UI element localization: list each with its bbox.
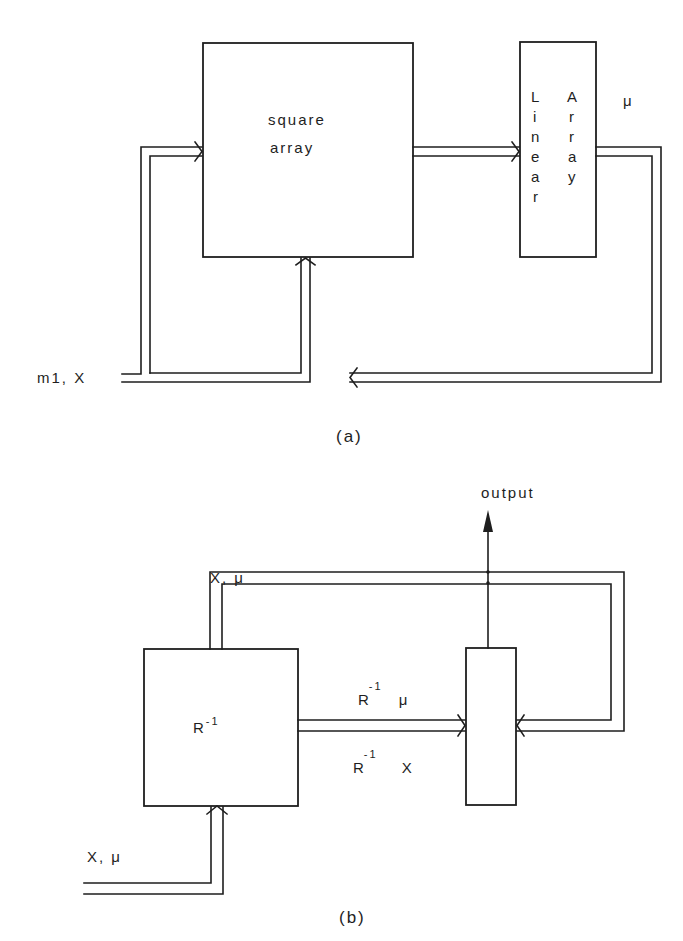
array-letter: A (567, 88, 577, 105)
linear-letter: r (533, 188, 538, 205)
array-letter: r (569, 128, 574, 145)
array-letter: a (568, 148, 577, 165)
linear-letter: L (531, 88, 539, 105)
linear-letter: a (531, 168, 540, 185)
r-inverse-box (144, 649, 298, 806)
pipe-input-left (122, 142, 202, 374)
arrowhead-icon (296, 258, 315, 265)
arrowhead-icon (350, 368, 357, 387)
square-array-label-line2: array (270, 139, 314, 156)
square-array-label-line1: square (268, 111, 326, 128)
arrowhead-icon (195, 142, 202, 161)
pipe-input-bottom (122, 258, 315, 382)
upper-pipe-label: R-1μ (358, 680, 409, 708)
diagram-a: square array L i n e a r A r r a y μ (37, 42, 661, 446)
output-arrow (483, 510, 493, 648)
arrowhead-icon (517, 715, 524, 736)
pipe-r-inverse-to-processor (298, 715, 465, 736)
array-letter: y (568, 168, 576, 185)
array-letter: r (569, 108, 574, 125)
linear-letter: n (531, 128, 539, 145)
pipe-square-to-linear (413, 142, 519, 161)
linear-letter: i (533, 108, 536, 125)
arrowhead-icon (458, 715, 465, 736)
input-label-x-mu: X, μ (87, 848, 122, 865)
arrowhead-icon (512, 142, 519, 161)
diagram-b: R-1 output X, μ R-1μ R-1X (84, 484, 624, 927)
feedback-label-x-mu: X, μ (210, 569, 245, 586)
caption-a: (a) (336, 427, 363, 446)
processor-box (466, 648, 516, 805)
mu-output-label: μ (623, 92, 634, 109)
diagram-canvas: square array L i n e a r A r r a y μ (0, 0, 683, 941)
arrowhead-icon (207, 806, 227, 814)
lower-pipe-label: R-1X (353, 748, 414, 776)
input-label-m1x: m1, X (37, 369, 86, 386)
output-label: output (481, 484, 535, 501)
caption-b: (b) (339, 908, 366, 927)
linear-letter: e (531, 148, 539, 165)
arrow-up-icon (483, 510, 493, 532)
